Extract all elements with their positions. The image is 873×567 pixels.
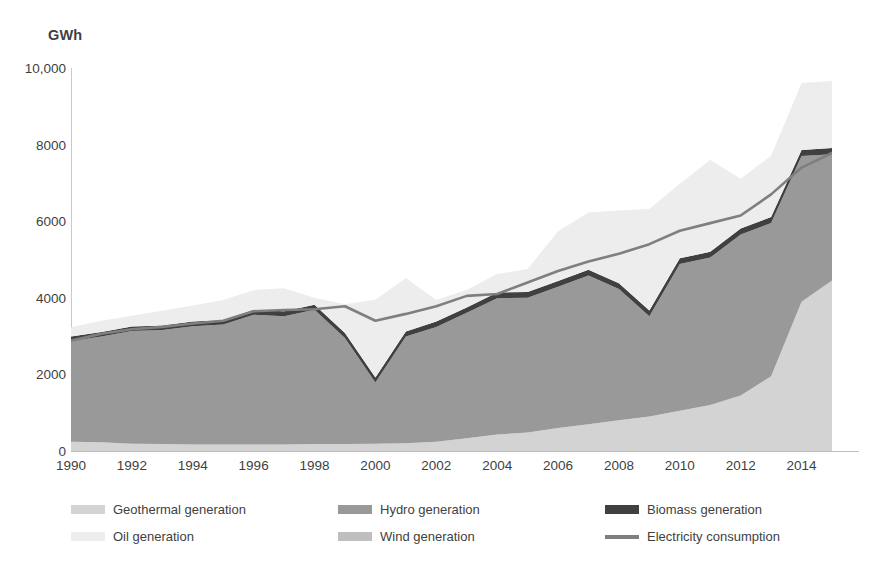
- y-axis-tick-label: 0: [4, 444, 66, 459]
- x-axis-tick-label: 1990: [56, 458, 86, 473]
- legend-item-wind-generation[interactable]: Wind generation: [338, 523, 608, 550]
- legend-label: Wind generation: [380, 529, 475, 544]
- legend-item-geothermal-generation[interactable]: Geothermal generation: [71, 496, 341, 523]
- legend-column: Biomass generationElectricity consumptio…: [605, 496, 873, 550]
- legend-swatch-icon: [71, 532, 105, 541]
- legend-item-hydro-generation[interactable]: Hydro generation: [338, 496, 608, 523]
- y-axis-tick-label: 10,000: [4, 61, 66, 76]
- x-axis-tick-labels: 1990199219941996199820002002200420062008…: [0, 458, 873, 484]
- legend-swatch-icon: [605, 535, 639, 539]
- y-axis-tick-label: 8000: [4, 137, 66, 152]
- legend-label: Oil generation: [113, 529, 194, 544]
- y-axis-tick-label: 2000: [4, 367, 66, 382]
- chart-legend: Geothermal generationOil generationHydro…: [71, 496, 861, 554]
- x-axis-tick-label: 2010: [665, 458, 695, 473]
- y-axis-tick-label: 6000: [4, 214, 66, 229]
- x-axis-tick-label: 2008: [604, 458, 634, 473]
- plot-area: [71, 68, 832, 451]
- legend-column: Hydro generationWind generation: [338, 496, 608, 550]
- legend-label: Geothermal generation: [113, 502, 246, 517]
- y-axis-tick-labels: 0200040006000800010,000: [0, 0, 66, 520]
- x-axis-tick-label: 2002: [421, 458, 451, 473]
- legend-label: Hydro generation: [380, 502, 480, 517]
- legend-item-oil-generation[interactable]: Oil generation: [71, 523, 341, 550]
- y-axis-tick-label: 4000: [4, 290, 66, 305]
- x-axis-tick-label: 1994: [178, 458, 208, 473]
- legend-swatch-icon: [338, 532, 372, 541]
- legend-column: Geothermal generationOil generation: [71, 496, 341, 550]
- x-axis-tick-label: 1996: [239, 458, 269, 473]
- x-axis-line: [71, 451, 859, 452]
- x-axis-tick-label: 2000: [360, 458, 390, 473]
- x-axis-tick-label: 2014: [787, 458, 817, 473]
- legend-item-biomass-generation[interactable]: Biomass generation: [605, 496, 873, 523]
- x-axis-tick-label: 2012: [726, 458, 756, 473]
- chart-figure: GWh 0200040006000800010,000 199019921994…: [0, 0, 873, 567]
- legend-item-electricity-consumption[interactable]: Electricity consumption: [605, 523, 873, 550]
- x-axis-tick-label: 1998: [299, 458, 329, 473]
- x-axis-tick-label: 2006: [543, 458, 573, 473]
- legend-label: Electricity consumption: [647, 529, 780, 544]
- stacked-area-chart: [71, 68, 832, 451]
- x-axis-tick-label: 1992: [117, 458, 147, 473]
- x-axis-tick-label: 2004: [482, 458, 512, 473]
- legend-swatch-icon: [71, 505, 105, 514]
- legend-label: Biomass generation: [647, 502, 762, 517]
- legend-swatch-icon: [605, 505, 639, 514]
- legend-swatch-icon: [338, 505, 372, 514]
